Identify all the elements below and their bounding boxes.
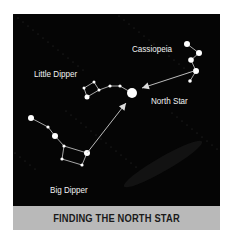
cassiopeia-pointer-arrow-head [142, 82, 150, 89]
background-star [148, 39, 149, 40]
background-star [42, 37, 43, 38]
background-star [130, 162, 131, 163]
background-star [211, 144, 212, 145]
big-dipper-star [52, 133, 58, 139]
background-star [176, 116, 177, 117]
background-star [216, 148, 217, 149]
background-star [125, 158, 126, 159]
background-star [196, 132, 197, 133]
background-star [178, 63, 179, 64]
cassiopeia-line [187, 44, 199, 81]
big-dipper-star [80, 163, 83, 166]
big-dipper-handle [31, 118, 64, 146]
background-star [201, 136, 202, 137]
background-star [138, 31, 139, 32]
background-star [168, 55, 169, 56]
little-dipper-star [98, 89, 101, 92]
north-star [127, 88, 137, 98]
background-star [171, 112, 172, 113]
background-star [181, 120, 182, 121]
big-dipper-star [28, 115, 34, 121]
background-star [183, 67, 184, 68]
label-north-star: North Star [151, 95, 188, 106]
background-star [47, 41, 48, 42]
caption-band: FINDING THE NORTH STAR [13, 206, 220, 230]
background-star [17, 17, 18, 18]
background-star [77, 65, 78, 66]
background-star [75, 118, 76, 119]
cassiopeia-star [196, 50, 202, 56]
little-dipper-handle [99, 86, 132, 93]
background-star [27, 25, 28, 26]
background-star [123, 19, 124, 20]
background-star [173, 59, 174, 60]
background-star [90, 130, 91, 131]
label-cassiopeia: Cassiopeia [132, 43, 172, 54]
big-dipper-pointer-arrow-line [87, 103, 126, 153]
big-dipper-bowl [62, 146, 87, 165]
little-dipper-star [85, 95, 90, 100]
star-chart: Cassiopeia Little Dipper North Star Big … [13, 14, 220, 206]
background-star [100, 138, 101, 139]
background-star [70, 114, 71, 115]
background-star [67, 57, 68, 58]
background-star [118, 15, 119, 16]
background-star [206, 140, 207, 141]
background-star [82, 69, 83, 70]
background-star [14, 152, 15, 153]
cassiopeia-star [184, 41, 190, 47]
background-star [13, 14, 14, 15]
background-star [143, 35, 144, 36]
background-star [135, 166, 136, 167]
background-star [62, 53, 63, 54]
big-dipper-star [60, 157, 63, 160]
caption-title: FINDING THE NORTH STAR [53, 212, 180, 224]
milky-way-haze [121, 135, 206, 192]
background-star [186, 124, 187, 125]
cassiopeia-star [188, 57, 194, 63]
background-star [120, 154, 121, 155]
label-big-dipper: Big Dipper [50, 184, 88, 195]
background-star [52, 45, 53, 46]
background-star [80, 122, 81, 123]
background-star [85, 126, 86, 127]
little-dipper-star [108, 84, 111, 87]
big-dipper-pointer-arrow-head [119, 103, 126, 111]
big-dipper-star [46, 125, 49, 128]
sky-diagram [13, 14, 220, 206]
little-dipper-star [118, 84, 121, 87]
little-dipper-star [93, 81, 96, 84]
background-star [133, 27, 134, 28]
little-dipper-star [83, 87, 86, 90]
background-star [57, 49, 58, 50]
background-star [24, 160, 25, 161]
background-star [128, 23, 129, 24]
background-star [32, 29, 33, 30]
background-star [95, 134, 96, 135]
big-dipper-star [62, 144, 65, 147]
cassiopeia-pointer-arrow-line [142, 71, 194, 88]
background-star [65, 110, 66, 111]
label-little-dipper: Little Dipper [34, 68, 77, 79]
background-star [110, 146, 111, 147]
background-star [19, 156, 20, 157]
background-star [29, 164, 30, 165]
background-star [115, 150, 116, 151]
background-star [105, 142, 106, 143]
background-star [37, 33, 38, 34]
background-star [72, 61, 73, 62]
background-star [191, 128, 192, 129]
background-star [22, 21, 23, 22]
cassiopeia-star [188, 79, 192, 83]
background-star [34, 168, 35, 169]
